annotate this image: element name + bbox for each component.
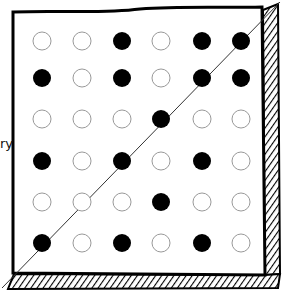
filled-dot	[113, 69, 131, 87]
open-dot	[113, 110, 131, 128]
open-dot	[232, 110, 250, 128]
open-dot	[73, 69, 91, 87]
open-dot	[152, 152, 170, 170]
open-dot	[73, 32, 91, 50]
open-dot	[232, 193, 250, 211]
open-dot	[73, 193, 91, 211]
filled-dot	[152, 110, 170, 128]
open-dot	[33, 193, 51, 211]
filled-dot	[193, 32, 211, 50]
filled-dot	[113, 234, 131, 252]
filled-dot	[33, 152, 51, 170]
open-dot	[152, 69, 170, 87]
dot-grid-board	[0, 0, 282, 291]
filled-dot	[232, 69, 250, 87]
board-face	[13, 7, 265, 275]
open-dot	[73, 110, 91, 128]
filled-dot	[152, 193, 170, 211]
open-dot	[73, 234, 91, 252]
filled-dot	[193, 69, 211, 87]
open-dot	[193, 193, 211, 211]
filled-dot	[33, 69, 51, 87]
open-dot	[232, 234, 250, 252]
filled-dot	[33, 234, 51, 252]
filled-dot	[113, 152, 131, 170]
open-dot	[73, 152, 91, 170]
open-dot	[193, 110, 211, 128]
filled-dot	[232, 32, 250, 50]
filled-dot	[193, 234, 211, 252]
open-dot	[33, 32, 51, 50]
open-dot	[152, 234, 170, 252]
filled-dot	[113, 32, 131, 50]
open-dot	[33, 110, 51, 128]
open-dot	[232, 152, 250, 170]
edge-label: ry	[0, 137, 13, 150]
open-dot	[152, 32, 170, 50]
filled-dot	[193, 152, 211, 170]
open-dot	[113, 193, 131, 211]
